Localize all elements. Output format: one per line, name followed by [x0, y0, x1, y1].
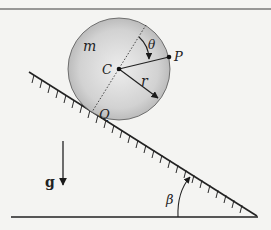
beta-label: β: [165, 192, 174, 207]
center-label: C: [102, 62, 112, 77]
beta-arc-arrow: [178, 177, 190, 217]
center-point: [117, 67, 122, 72]
rolling-disk-diagram: m C P Q r θ β g: [0, 0, 271, 230]
point-p-label: P: [173, 49, 183, 64]
contact-q-label: Q: [99, 107, 110, 122]
mass-label: m: [83, 38, 96, 54]
point-p: [167, 55, 172, 60]
gravity-label: g: [45, 174, 55, 190]
theta-label: θ: [148, 38, 156, 52]
